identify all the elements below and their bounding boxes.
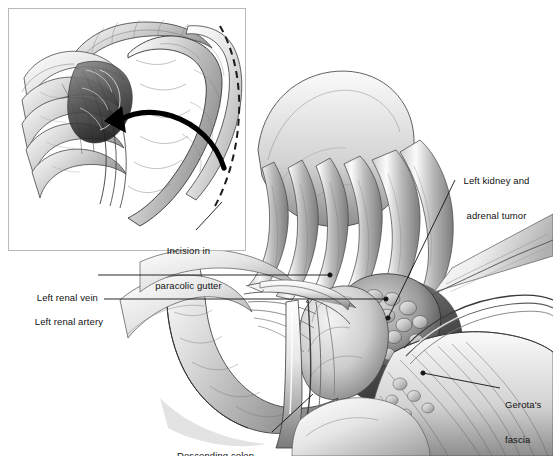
surgical-illustration-figure: Left kidney and adrenal tumor Left renal… [0, 0, 553, 456]
label-line-2: fascia [505, 434, 548, 446]
label-line-1: Descending colon [177, 450, 277, 456]
inset-caption-line-1: Incision in [136, 245, 241, 257]
label-line-1: Left kidney and [444, 175, 549, 187]
label-left-kidney-and-adrenal-tumor: Left kidney and adrenal tumor [444, 152, 549, 244]
label-line-1: Left renal artery [0, 316, 103, 328]
inset-caption-incision-paracolic-gutter: Incision in paracolic gutter [136, 222, 241, 314]
inset-caption-line-2: paracolic gutter [136, 280, 241, 292]
label-descending-colon: Descending colon [177, 427, 277, 456]
label-line-1: Gerota's [505, 399, 553, 411]
label-left-renal-artery: Left renal artery [0, 293, 103, 351]
inset-panel-artwork [9, 9, 246, 251]
label-gerotas-fascia: Gerota's fascia [505, 376, 553, 456]
label-line-2: adrenal tumor [444, 210, 549, 222]
